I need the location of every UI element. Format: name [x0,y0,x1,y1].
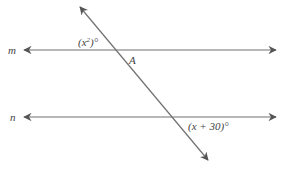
angle-x-plus-30-label: (x + 30)° [188,120,229,133]
angle-x-squared-label: (x2)° [78,36,99,49]
parallel-lines-diagram: m n (x2)° A (x + 30)° [0,0,284,169]
line-n-label: n [10,111,16,123]
point-a-label: A [128,54,136,66]
line-m-label: m [8,44,16,56]
transversal-line [80,7,208,160]
